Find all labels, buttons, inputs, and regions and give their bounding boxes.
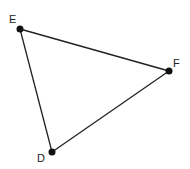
- triangle-diagram: E F D: [0, 0, 190, 169]
- edge-ef: [20, 29, 169, 71]
- vertex-f-label: F: [173, 57, 180, 69]
- vertex-d-point: [49, 149, 56, 156]
- vertex-e-point: [17, 26, 24, 33]
- vertex-f-point: [166, 68, 173, 75]
- vertex-e-label: E: [9, 13, 16, 25]
- edge-fd: [52, 71, 169, 152]
- vertex-d-label: D: [37, 152, 45, 164]
- edge-de: [20, 29, 52, 152]
